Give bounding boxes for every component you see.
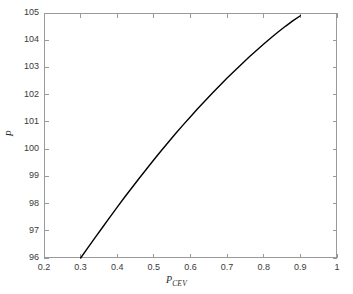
y-tick-label: 97 <box>9 225 39 235</box>
y-tick-label: 105 <box>9 7 39 17</box>
tick-marks-group <box>44 13 337 258</box>
y-tick-label: 96 <box>9 252 39 262</box>
x-tick-label: 0.7 <box>212 262 242 272</box>
y-tick-label: 103 <box>9 61 39 71</box>
y-tick-label: 101 <box>9 116 39 126</box>
figure-canvas: 0.20.30.40.50.60.70.80.91 96979899100101… <box>0 0 353 294</box>
y-tick-label: 100 <box>9 143 39 153</box>
x-tick-label: 1 <box>322 262 352 272</box>
x-tick-label: 0.5 <box>139 262 169 272</box>
x-axis-title: PCEV <box>0 274 353 288</box>
x-tick-label: 0.6 <box>176 262 206 272</box>
x-tick-label: 0.4 <box>102 262 132 272</box>
y-tick-label: 98 <box>9 198 39 208</box>
plot-area <box>44 13 337 258</box>
x-tick-label: 0.8 <box>249 262 279 272</box>
y-tick-label: 99 <box>9 170 39 180</box>
x-tick-label: 0.9 <box>285 262 315 272</box>
data-series-line <box>81 16 301 258</box>
x-tick-label: 0.2 <box>29 262 59 272</box>
y-tick-label: 104 <box>9 34 39 44</box>
x-axis-title-subscript: CEV <box>172 279 187 288</box>
y-tick-label: 102 <box>9 89 39 99</box>
x-tick-label: 0.3 <box>66 262 96 272</box>
y-axis-title: P <box>4 130 15 136</box>
